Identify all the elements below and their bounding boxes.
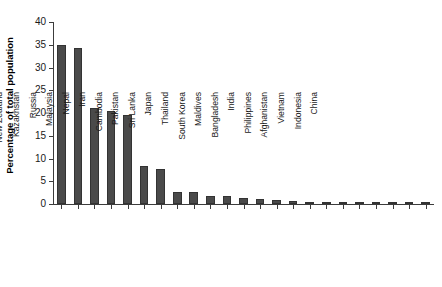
y-tick-label: 40	[35, 15, 46, 28]
bar	[388, 202, 397, 204]
y-tick-label: 35	[35, 38, 46, 51]
x-tick-mark	[393, 205, 394, 209]
x-tick-mark	[409, 205, 410, 209]
x-tick-label: Nepal	[61, 92, 71, 212]
x-tick-label: Cambodia	[94, 92, 104, 212]
x-tick-label: Sri Lanka	[127, 92, 137, 212]
x-tick-label: Pakistan	[110, 92, 120, 212]
bar	[322, 202, 331, 204]
plot-area: 0510152025303540 SingaporeBruneiAustrali…	[53, 22, 434, 204]
x-tick-label: China	[309, 92, 319, 212]
y-tick-label: 30	[35, 61, 46, 74]
x-tick-mark	[376, 205, 377, 209]
x-tick-label: Thailand	[160, 92, 170, 212]
chart-figure: Percentage of total population 051015202…	[0, 0, 442, 287]
bar	[339, 202, 348, 204]
x-tick-label: Iran	[77, 92, 87, 212]
x-tick-label: Japan	[143, 92, 153, 212]
bar	[372, 202, 381, 204]
x-tick-label: South Korea	[177, 92, 187, 212]
x-tick-label: Philippines	[243, 92, 253, 212]
x-tick-label: Maldives	[193, 92, 203, 212]
x-tick-label: Indonesia	[293, 92, 303, 212]
x-tick-label: Afghanistan	[259, 92, 269, 212]
x-tick-label: Kazakhstan	[11, 92, 21, 212]
x-tick-mark	[426, 205, 427, 209]
x-tick-mark	[343, 205, 344, 209]
bar	[421, 202, 430, 204]
x-tick-mark	[359, 205, 360, 209]
x-tick-mark	[326, 205, 327, 209]
bar	[405, 202, 414, 204]
x-tick-label: Bangladesh	[210, 92, 220, 212]
x-tick-label: Russia	[28, 92, 38, 212]
bar	[355, 202, 364, 204]
x-tick-label: Vietnam	[276, 92, 286, 212]
x-tick-label: Malaysia	[44, 92, 54, 212]
x-tick-label: New Zealand	[0, 92, 4, 212]
x-tick-label: India	[226, 92, 236, 212]
